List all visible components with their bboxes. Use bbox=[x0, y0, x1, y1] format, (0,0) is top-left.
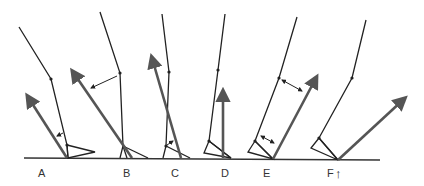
phase-f-foot bbox=[311, 138, 338, 160]
phase-a-knee-joint bbox=[49, 77, 52, 80]
phase-c-knee-joint bbox=[167, 70, 170, 73]
phase-e-figure bbox=[248, 17, 316, 159]
phase-e-knee-moment-arrow bbox=[282, 80, 302, 91]
phase-label-c: C bbox=[171, 167, 179, 179]
phase-b-figure bbox=[73, 12, 148, 158]
phase-e-ankle-moment-arrow bbox=[261, 136, 274, 143]
phase-b-moment-arrow bbox=[91, 76, 117, 88]
phase-c-moment-arrow bbox=[167, 141, 173, 145]
phase-a-figure bbox=[19, 27, 95, 158]
phase-c-figure bbox=[152, 14, 190, 158]
phase-label-a: A bbox=[38, 167, 46, 179]
phase-b-knee-joint bbox=[118, 71, 121, 74]
phase-d-knee-joint bbox=[216, 68, 219, 71]
gait-diagram: A B C D E F ↑ bbox=[0, 0, 424, 186]
phase-label-b: B bbox=[123, 167, 130, 179]
phase-e-foot bbox=[248, 141, 273, 159]
up-arrow-icon: ↑ bbox=[335, 166, 342, 181]
phase-f-figure bbox=[311, 20, 404, 160]
phase-e-knee-joint bbox=[277, 76, 280, 79]
phase-e-force-vector bbox=[273, 78, 316, 159]
phase-a-force-vector bbox=[28, 97, 67, 158]
phase-a-leg bbox=[19, 27, 68, 158]
phase-a-foot bbox=[67, 145, 95, 158]
phase-a-moment-arrow bbox=[57, 133, 63, 136]
phase-f-toe bbox=[319, 138, 338, 160]
phase-label-d: D bbox=[221, 167, 229, 179]
phase-c-leg bbox=[162, 14, 169, 158]
phase-label-e: E bbox=[263, 167, 270, 179]
phase-b-leg bbox=[100, 12, 123, 158]
phase-f-leg bbox=[319, 20, 366, 138]
ground-line bbox=[24, 158, 380, 160]
phase-label-f: F bbox=[327, 167, 334, 179]
phase-f-knee-joint bbox=[350, 76, 353, 79]
phase-e-leg bbox=[255, 17, 297, 141]
phase-f-force-vector bbox=[338, 99, 404, 160]
phase-b-force-vector bbox=[73, 72, 132, 158]
phase-d-figure bbox=[204, 14, 231, 158]
